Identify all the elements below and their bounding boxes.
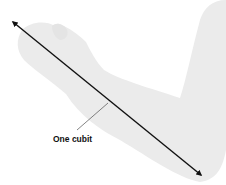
diagram-canvas xyxy=(0,0,226,185)
arm-silhouette xyxy=(18,0,226,182)
cubit-label: One cubit xyxy=(53,134,92,144)
cubit-diagram: One cubit xyxy=(0,0,226,185)
